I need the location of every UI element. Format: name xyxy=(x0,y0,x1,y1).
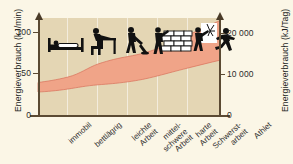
y-tick-label-right: 0 xyxy=(227,110,232,120)
y-tick-label-right: 10 000 xyxy=(227,69,254,79)
person-vacuuming-icon xyxy=(123,26,149,56)
y-axis-left-arrow xyxy=(35,12,43,20)
y-tick-left xyxy=(33,32,38,33)
y-tick-right xyxy=(220,74,225,75)
y-axis-right-title: Energieverbrauch (kJ/Tag) xyxy=(280,9,290,112)
y-tick-left xyxy=(33,73,38,74)
y-axis-left-title: Energieverbrauch (kJ/min) xyxy=(13,9,23,112)
figure-container: 100 50 0 20 000 10 000 0 Energieverbrauc… xyxy=(0,0,293,164)
person-bricklaying-icon xyxy=(152,25,194,56)
x-axis-line xyxy=(30,115,230,117)
person-in-bed-icon xyxy=(47,34,85,56)
y-tick-right xyxy=(220,115,225,116)
y-axis-right-arrow xyxy=(216,12,224,20)
y-tick-left xyxy=(33,115,38,116)
y-axis-left-line xyxy=(38,14,40,116)
person-at-desk-icon xyxy=(87,26,117,56)
y-axis-right-line xyxy=(219,14,221,116)
y-tick-label-left: 0 xyxy=(26,110,31,120)
y-tick-label-right: 20 000 xyxy=(227,28,254,38)
y-tick-right xyxy=(220,33,225,34)
